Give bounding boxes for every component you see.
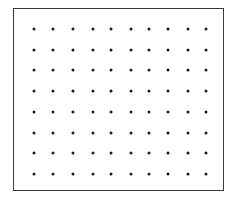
- grid-dot: [148, 111, 151, 114]
- grid-dot: [167, 69, 170, 72]
- grid-dot: [52, 28, 55, 31]
- grid-dot: [33, 152, 36, 155]
- grid-dot: [187, 152, 190, 155]
- grid-dot: [110, 132, 113, 135]
- grid-dot: [92, 173, 95, 176]
- grid-dot: [92, 90, 95, 93]
- grid-dot: [52, 69, 55, 72]
- grid-dot: [92, 132, 95, 135]
- grid-dot: [187, 90, 190, 93]
- grid-dot: [148, 49, 151, 52]
- grid-dot: [72, 69, 75, 72]
- grid-dot: [167, 90, 170, 93]
- grid-dot: [72, 28, 75, 31]
- dot-grid-frame: [13, 8, 224, 191]
- grid-dot: [148, 152, 151, 155]
- grid-dot: [187, 111, 190, 114]
- grid-dot: [33, 69, 36, 72]
- grid-dot: [167, 132, 170, 135]
- grid-dot: [130, 152, 133, 155]
- grid-dot: [130, 132, 133, 135]
- grid-dot: [92, 28, 95, 31]
- grid-dot: [52, 49, 55, 52]
- grid-dot: [33, 111, 36, 114]
- grid-dot: [167, 49, 170, 52]
- grid-dot: [110, 111, 113, 114]
- grid-dot: [130, 28, 133, 31]
- grid-dot: [187, 132, 190, 135]
- grid-dot: [130, 90, 133, 93]
- grid-dot: [148, 28, 151, 31]
- grid-dot: [92, 152, 95, 155]
- grid-dot: [205, 132, 208, 135]
- grid-dot: [72, 111, 75, 114]
- grid-dot: [33, 173, 36, 176]
- grid-dot: [72, 132, 75, 135]
- grid-dot: [92, 69, 95, 72]
- grid-dot: [52, 111, 55, 114]
- grid-dot: [148, 90, 151, 93]
- grid-dot: [205, 152, 208, 155]
- grid-dot: [110, 90, 113, 93]
- grid-dot: [110, 152, 113, 155]
- grid-dot: [130, 49, 133, 52]
- grid-dot: [167, 111, 170, 114]
- grid-dot: [205, 69, 208, 72]
- grid-dot: [187, 69, 190, 72]
- grid-dot: [52, 152, 55, 155]
- grid-dot: [110, 173, 113, 176]
- grid-dot: [52, 132, 55, 135]
- grid-dot: [52, 90, 55, 93]
- grid-dot: [205, 90, 208, 93]
- grid-dot: [205, 111, 208, 114]
- grid-dot: [72, 152, 75, 155]
- grid-dot: [130, 173, 133, 176]
- grid-dot: [187, 49, 190, 52]
- grid-dot: [167, 152, 170, 155]
- grid-dot: [72, 49, 75, 52]
- grid-dot: [33, 90, 36, 93]
- grid-dot: [33, 49, 36, 52]
- grid-dot: [130, 69, 133, 72]
- grid-dot: [148, 132, 151, 135]
- grid-dot: [33, 28, 36, 31]
- grid-dot: [92, 49, 95, 52]
- grid-dot: [52, 173, 55, 176]
- grid-dot: [167, 28, 170, 31]
- grid-dot: [148, 69, 151, 72]
- grid-dot: [205, 173, 208, 176]
- grid-dot: [92, 111, 95, 114]
- grid-dot: [110, 28, 113, 31]
- grid-dot: [187, 28, 190, 31]
- grid-dot: [72, 173, 75, 176]
- grid-dot: [167, 173, 170, 176]
- grid-dot: [205, 49, 208, 52]
- grid-dot: [130, 111, 133, 114]
- grid-dot: [187, 173, 190, 176]
- grid-dot: [110, 69, 113, 72]
- grid-dot: [33, 132, 36, 135]
- grid-dot: [72, 90, 75, 93]
- grid-dot: [205, 28, 208, 31]
- grid-dot: [148, 173, 151, 176]
- grid-dot: [110, 49, 113, 52]
